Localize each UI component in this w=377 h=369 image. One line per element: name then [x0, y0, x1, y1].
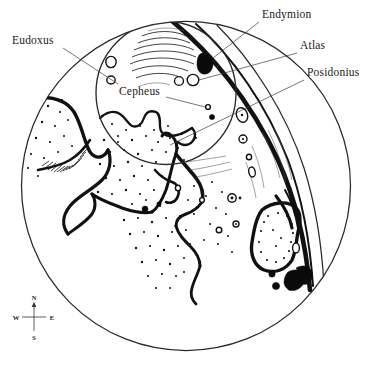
crater-dark-mid-b — [157, 202, 161, 206]
crater-atlas — [187, 74, 199, 85]
crater-mid-b — [200, 198, 205, 203]
crater-mid-a — [175, 185, 180, 191]
crater-endymion — [197, 53, 213, 74]
crater-right-d-companion — [239, 197, 242, 200]
crater-right-b — [246, 154, 251, 160]
crater-right-f — [293, 243, 300, 253]
compass-label-north: N — [32, 294, 37, 301]
dark-blotch-e — [288, 286, 293, 291]
crater-franklin — [209, 114, 214, 119]
dark-blotch-c — [269, 271, 275, 277]
crater-right-a-peak — [242, 138, 244, 140]
map-background — [0, 0, 377, 369]
lunar-map-figure: Eudoxus Endymion Atlas Posidonius Cepheu… — [0, 0, 377, 369]
crater-right-g — [216, 227, 222, 233]
lunar-map-canvas: Eudoxus Endymion Atlas Posidonius Cepheu… — [0, 0, 377, 369]
compass-label-south: S — [32, 334, 36, 341]
crater-dark-mid-a — [142, 206, 148, 212]
crater-cepheus — [206, 105, 211, 110]
compass-label-west: W — [13, 314, 20, 321]
label-cepheus: Cepheus — [119, 85, 160, 98]
crater-right-d-peak — [231, 197, 234, 200]
label-eudoxus: Eudoxus — [12, 34, 54, 46]
crater-posidonius-peak — [241, 114, 243, 116]
label-endymion: Endymion — [262, 8, 312, 21]
label-posidonius: Posidonius — [307, 66, 360, 78]
crater-right-e-peak — [235, 223, 237, 225]
compass-label-east: E — [50, 314, 54, 321]
crater-hercules — [175, 77, 184, 86]
dark-blotch-d — [272, 282, 279, 289]
label-atlas: Atlas — [300, 39, 326, 51]
crater-eudoxus — [106, 56, 116, 67]
